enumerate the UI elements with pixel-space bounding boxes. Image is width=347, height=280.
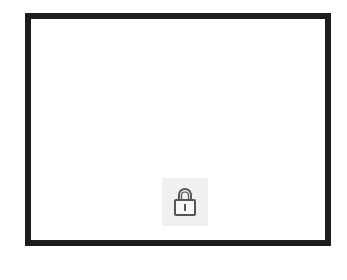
window-frame: locked — [25, 13, 331, 246]
lock-icon — [173, 187, 197, 217]
lock-button[interactable]: locked — [162, 178, 208, 226]
